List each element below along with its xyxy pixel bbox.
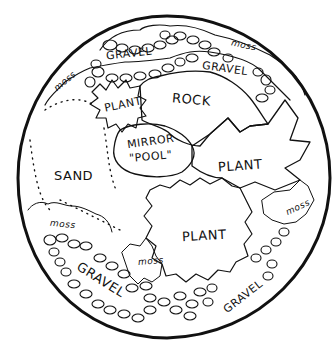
label-plant-bottom: PLANT <box>182 227 227 244</box>
label-plant-right: PLANT <box>218 156 263 174</box>
garden-map-diagram: GRAVEL GRAVEL moss moss PLANT ROCK MIRRO… <box>0 0 335 350</box>
label-moss-left: moss <box>50 218 76 230</box>
plant-right-shape <box>192 100 310 190</box>
top-band-inner <box>45 51 290 105</box>
garden-map-drawing <box>0 0 335 350</box>
label-sand: SAND <box>54 168 93 183</box>
